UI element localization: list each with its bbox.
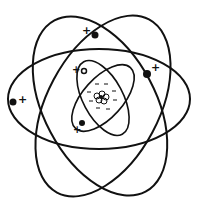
electron-right [143, 70, 151, 78]
nucleus [87, 84, 117, 109]
orbits [5, 0, 198, 208]
proton [99, 95, 103, 99]
electron-top [92, 32, 99, 39]
electrons [10, 32, 152, 127]
orbit-outer-tilted-left [5, 0, 195, 208]
electron-left [10, 99, 17, 106]
plus-sign: + [73, 124, 81, 135]
electron-inner-top [82, 69, 87, 74]
plus-sign: + [72, 64, 80, 75]
atom-diagram: + + + + + [0, 0, 202, 208]
plus-sign: + [18, 93, 27, 106]
plus-sign: + [82, 24, 91, 37]
plus-sign: + [151, 61, 160, 74]
